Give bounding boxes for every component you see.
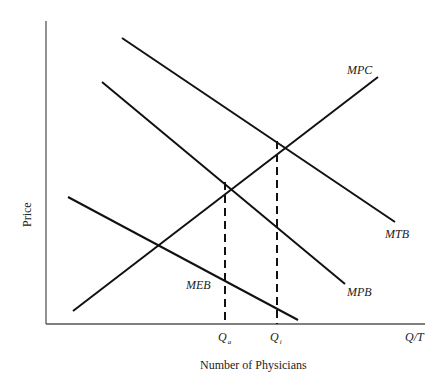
mpc-label: MPC bbox=[346, 63, 373, 77]
mpb-curve bbox=[102, 82, 345, 284]
meb-label: MEB bbox=[185, 278, 211, 292]
externality-diagram: MPC MTB MPB MEB Qa Qi Q/T Number of Phys… bbox=[0, 0, 447, 373]
y-axis-title: Price bbox=[20, 202, 34, 227]
qi-label: Qi bbox=[270, 330, 282, 346]
x-axis-end-label: Q/T bbox=[405, 330, 425, 344]
mtb-label: MTB bbox=[384, 227, 410, 241]
x-axis-title: Number of Physicians bbox=[200, 358, 307, 372]
qa-label: Qa bbox=[218, 330, 232, 346]
mpb-label: MPB bbox=[346, 285, 372, 299]
